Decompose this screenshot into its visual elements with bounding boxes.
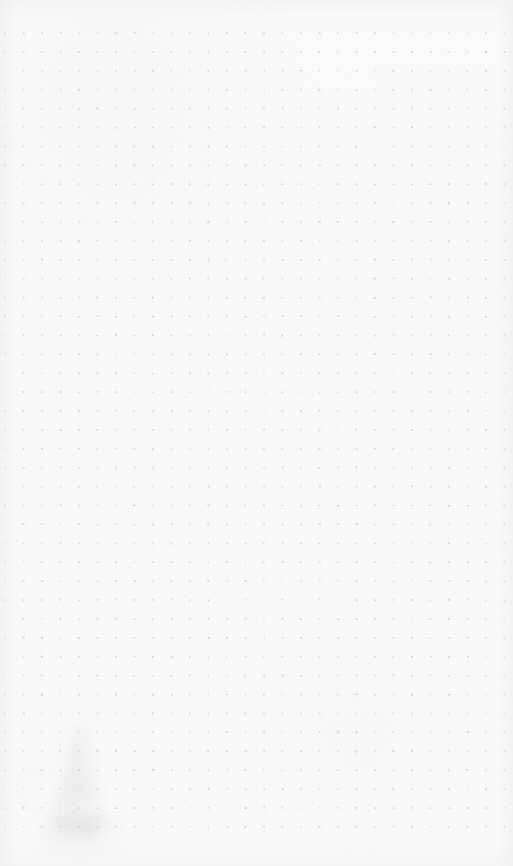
dot-grid <box>0 0 513 866</box>
notebook-page <box>0 0 513 866</box>
